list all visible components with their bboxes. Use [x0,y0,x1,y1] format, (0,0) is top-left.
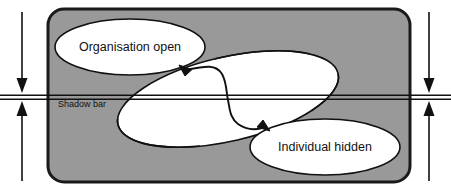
left-measure-arrow [17,12,28,181]
left-arrow-head-down [17,78,28,93]
shadow-bar-diagram: Organisation open Individual hidden Shad… [0,0,451,195]
right-measure-arrow [424,12,435,181]
diagram-canvas: Organisation open Individual hidden Shad… [0,0,451,195]
right-arrow-head-down [424,78,435,93]
right-arrow-head-up [424,101,435,116]
left-arrow-head-up [17,101,28,116]
label-individual-hidden: Individual hidden [278,140,372,154]
label-organisation-open: Organisation open [79,40,181,54]
label-shadow-bar: Shadow bar [58,99,106,109]
